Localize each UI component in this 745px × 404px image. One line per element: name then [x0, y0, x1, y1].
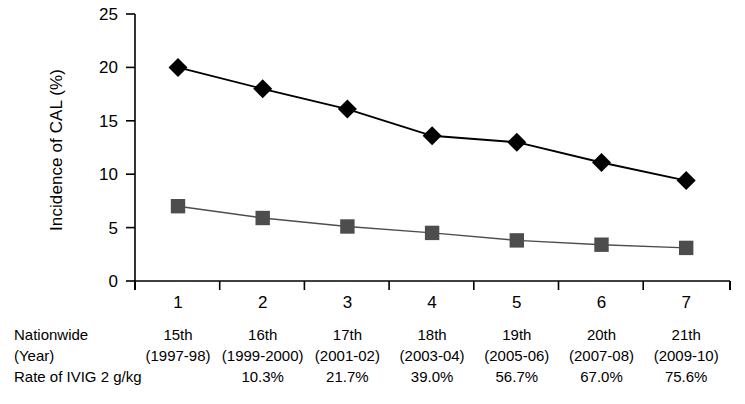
x-tick-label: 5 — [497, 294, 537, 311]
table-cell-year: (1997-98) — [145, 348, 210, 363]
y-tick-label: 15 — [82, 113, 118, 130]
x-tick-label: 6 — [582, 294, 622, 311]
table-cell-year: (2005-06) — [484, 348, 549, 363]
data-point-square — [340, 219, 354, 233]
series-1-diamond — [169, 58, 696, 190]
y-tick-label: 25 — [82, 6, 118, 23]
x-tick-label: 4 — [412, 294, 452, 311]
y-tick-label: 10 — [82, 166, 118, 183]
chart-figure: Incidence of CAL (%) 0510152025 1234567 … — [0, 0, 745, 404]
table-cell-ivig-rate: 75.6% — [665, 369, 708, 384]
x-axis-ticks — [135, 281, 730, 290]
y-tick-label: 20 — [82, 59, 118, 76]
table-cell-year: (2003-04) — [400, 348, 465, 363]
data-point-diamond — [423, 126, 442, 145]
table-cell-ivig-rate: 21.7% — [326, 369, 369, 384]
table-cell-survey: 16th — [248, 327, 277, 342]
table-cell-survey: 21th — [672, 327, 701, 342]
y-axis-ticks — [126, 14, 135, 281]
x-tick-label: 1 — [158, 294, 198, 311]
series-2-square — [171, 199, 694, 255]
data-point-diamond — [592, 153, 611, 172]
x-tick-label: 2 — [243, 294, 283, 311]
table-cell-year: (2007-08) — [569, 348, 634, 363]
y-tick-label: 0 — [82, 273, 118, 290]
table-cell-survey: 19th — [502, 327, 531, 342]
x-tick-label: 7 — [666, 294, 706, 311]
table-cell-year: (1999-2000) — [222, 348, 304, 363]
data-point-diamond — [677, 171, 696, 190]
data-point-diamond — [338, 100, 357, 119]
data-point-diamond — [507, 133, 526, 152]
data-point-diamond — [253, 79, 272, 98]
y-tick-label: 5 — [82, 220, 118, 237]
table-cell-ivig-rate: 67.0% — [580, 369, 623, 384]
table-cell-survey: 18th — [417, 327, 446, 342]
table-cell-year: (2001-02) — [315, 348, 380, 363]
table-cell-ivig-rate: 56.7% — [496, 369, 539, 384]
table-cell-survey: 20th — [587, 327, 616, 342]
data-point-square — [256, 211, 270, 225]
data-point-square — [679, 241, 693, 255]
series-line — [178, 67, 686, 180]
table-cell-survey: 15th — [163, 327, 192, 342]
data-point-square — [510, 233, 524, 247]
table-cell-ivig-rate: 10.3% — [241, 369, 284, 384]
table-row-label-year: (Year) — [14, 348, 54, 363]
data-series-group — [169, 58, 696, 255]
table-row-label-ivig-rate: Rate of IVIG 2 g/kg — [14, 369, 142, 384]
x-tick-label: 3 — [327, 294, 367, 311]
data-point-diamond — [169, 58, 188, 77]
data-point-square — [594, 238, 608, 252]
data-point-square — [171, 199, 185, 213]
data-point-square — [425, 226, 439, 240]
table-cell-year: (2009-10) — [654, 348, 719, 363]
table-row-label-nationwide: Nationwide — [14, 327, 88, 342]
table-cell-ivig-rate: 39.0% — [411, 369, 454, 384]
table-cell-survey: 17th — [333, 327, 362, 342]
axes — [126, 14, 730, 290]
